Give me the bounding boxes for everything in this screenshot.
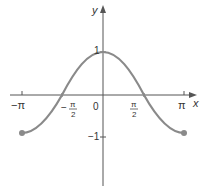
- x-tick-label-neg-pi: −π: [11, 99, 25, 111]
- endpoint-left: [19, 130, 25, 136]
- cosine-graph: y x 1 −1 0 −π π − π 2 π 2: [0, 0, 207, 189]
- x-axis-label: x: [192, 97, 199, 109]
- y-tick-label-1: 1: [94, 45, 100, 56]
- svg-text:−: −: [61, 102, 67, 113]
- svg-text:2: 2: [132, 110, 137, 119]
- y-axis-arrow-icon: [100, 5, 106, 13]
- svg-text:π: π: [70, 100, 76, 109]
- svg-text:2: 2: [71, 110, 76, 119]
- y-tick-label-neg-1: −1: [88, 131, 100, 142]
- y-axis-label: y: [91, 4, 99, 16]
- x-tick-label-neg-half-pi: − π 2: [61, 100, 77, 119]
- x-tick-label-pi: π: [178, 99, 186, 111]
- x-tick-label-zero: 0: [93, 101, 99, 112]
- svg-text:π: π: [131, 100, 137, 109]
- endpoint-right: [181, 130, 187, 136]
- x-tick-label-half-pi: π 2: [130, 100, 138, 119]
